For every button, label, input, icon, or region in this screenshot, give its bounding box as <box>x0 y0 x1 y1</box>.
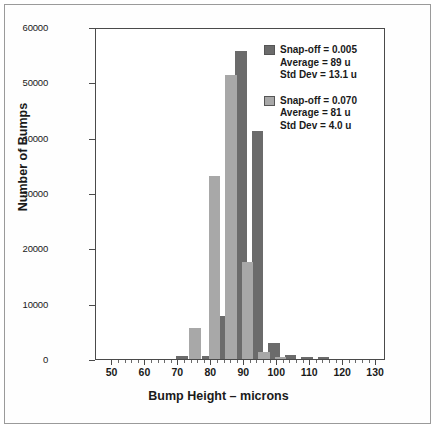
legend-label: Snap-off = 0.005 <box>280 44 357 57</box>
y-tick-label: 0 <box>0 354 48 365</box>
legend-entry: Snap-off = 0.070 Average = 81 u Std Dev … <box>264 95 357 133</box>
x-minor-tick-mark <box>131 360 132 363</box>
x-minor-tick-mark <box>171 360 172 363</box>
histogram-bar <box>209 176 221 359</box>
x-minor-tick-mark <box>197 360 198 363</box>
x-minor-tick-mark <box>138 360 139 363</box>
x-minor-tick-mark <box>369 360 370 363</box>
x-minor-tick-mark <box>224 360 225 363</box>
x-tick-mark <box>375 360 376 365</box>
x-tick-mark <box>243 360 244 365</box>
x-minor-tick-mark <box>237 360 238 363</box>
histogram-figure: Number of Bumps Bump Height – microns 01… <box>0 0 437 430</box>
x-minor-tick-mark <box>263 360 264 363</box>
legend-swatch-icon <box>264 96 275 106</box>
histogram-bar <box>318 357 330 359</box>
x-minor-tick-mark <box>256 360 257 363</box>
y-tick-label: 40000 <box>0 133 48 144</box>
x-minor-tick-mark <box>184 360 185 363</box>
x-minor-tick-mark <box>164 360 165 363</box>
legend-average: Average = 81 u <box>280 107 357 120</box>
histogram-bar <box>258 352 270 359</box>
x-minor-tick-mark <box>329 360 330 363</box>
x-tick-mark <box>210 360 211 365</box>
x-minor-tick-mark <box>283 360 284 363</box>
x-minor-tick-mark <box>336 360 337 363</box>
x-tick-mark <box>309 360 310 365</box>
legend-average: Average = 89 u <box>280 57 357 70</box>
x-minor-tick-mark <box>230 360 231 363</box>
x-minor-tick-mark <box>125 360 126 363</box>
legend-label: Snap-off = 0.070 <box>280 95 357 108</box>
y-tick-label: 60000 <box>0 22 48 33</box>
x-minor-tick-mark <box>289 360 290 363</box>
x-minor-tick-mark <box>316 360 317 363</box>
x-tick-label: 130 <box>355 366 395 378</box>
x-minor-tick-mark <box>362 360 363 363</box>
x-minor-tick-mark <box>250 360 251 363</box>
histogram-bar <box>189 328 201 359</box>
y-tick-label: 20000 <box>0 243 48 254</box>
chart-legend: Snap-off = 0.005 Average = 89 u Std Dev … <box>264 44 357 145</box>
x-minor-tick-mark <box>349 360 350 363</box>
histogram-bar <box>242 262 254 359</box>
x-minor-tick-mark <box>303 360 304 363</box>
x-tick-mark <box>342 360 343 365</box>
x-tick-mark <box>144 360 145 365</box>
x-minor-tick-mark <box>158 360 159 363</box>
histogram-bar <box>225 75 237 359</box>
x-minor-tick-mark <box>191 360 192 363</box>
x-minor-tick-mark <box>204 360 205 363</box>
x-minor-tick-mark <box>217 360 218 363</box>
x-tick-mark <box>177 360 178 365</box>
x-axis-title: Bump Height – microns <box>0 389 437 403</box>
x-minor-tick-mark <box>355 360 356 363</box>
histogram-bar <box>176 356 188 359</box>
legend-swatch-icon <box>264 45 275 55</box>
y-tick-mark <box>89 360 95 361</box>
x-minor-tick-mark <box>296 360 297 363</box>
x-minor-tick-mark <box>322 360 323 363</box>
x-minor-tick-mark <box>151 360 152 363</box>
histogram-bar <box>301 357 313 359</box>
x-minor-tick-mark <box>118 360 119 363</box>
y-tick-label: 50000 <box>0 77 48 88</box>
legend-std-dev: Std Dev = 4.0 u <box>280 120 357 133</box>
x-tick-mark <box>111 360 112 365</box>
legend-std-dev: Std Dev = 13.1 u <box>280 69 357 82</box>
x-tick-mark <box>276 360 277 365</box>
y-tick-label: 10000 <box>0 299 48 310</box>
y-axis-title: Number of Bumps <box>16 72 30 242</box>
histogram-bar <box>275 357 287 359</box>
x-minor-tick-mark <box>270 360 271 363</box>
y-tick-label: 30000 <box>0 188 48 199</box>
legend-entry: Snap-off = 0.005 Average = 89 u Std Dev … <box>264 44 357 82</box>
